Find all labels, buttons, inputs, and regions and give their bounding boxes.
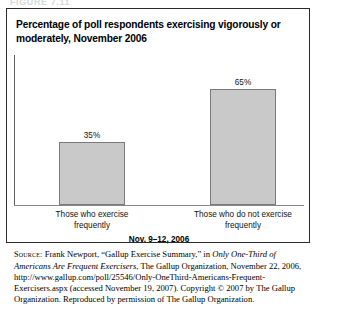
source-note: Source: Frank Newport, “Gallup Exercise … [14,249,306,305]
figure-caption: FIGURE 7.11 [10,0,70,6]
source-text-part-1: Frank Newport, “Gallup Exercise Summary,… [43,249,213,259]
x-axis-title: Nov. 9–12, 2006 [14,235,304,244]
y-axis-line [14,55,15,206]
x-tick-label-1: Those who exercise frequently [43,210,141,231]
bar-value-label-1: 35% [59,131,125,140]
source-label: Source: [14,250,43,259]
bar-those-who-do-not-exercise-frequently [210,89,276,205]
plot-area: 35% Those who exercise frequently 65% Th… [7,9,309,242]
x-axis-line [14,205,304,206]
bar-those-who-exercise-frequently [59,142,125,205]
chart-container: Percentage of poll respondents exercisin… [6,8,310,243]
bar-value-label-2: 65% [210,78,276,87]
x-tick-label-2: Those who do not exercise frequently [193,210,293,231]
